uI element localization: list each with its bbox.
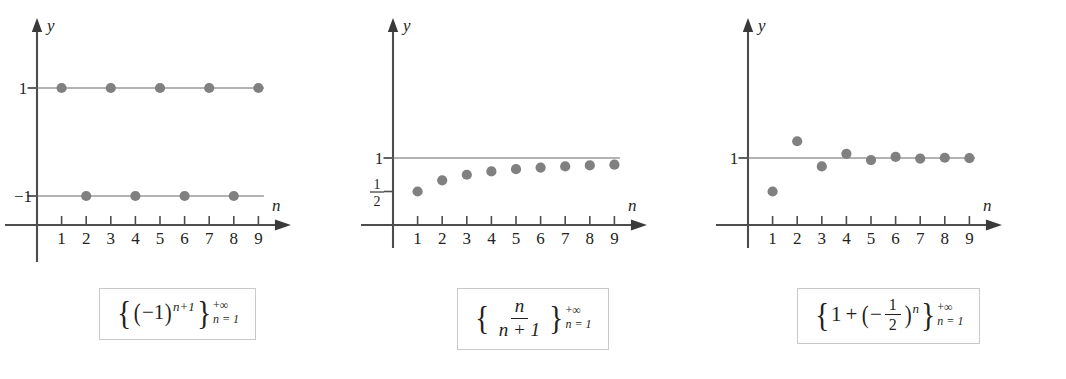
sequence-figure-row: yn1234567891−1 { ( −1 ) n+1 } +∞ n = 1: [0, 0, 1066, 379]
x-tick-label: 3: [462, 229, 471, 248]
brace-left-icon: {: [117, 299, 131, 326]
x-tick-label: 4: [842, 229, 851, 248]
data-point: [964, 153, 974, 163]
data-point: [768, 186, 778, 196]
x-tick-label: 1: [57, 229, 66, 248]
data-point: [130, 191, 140, 201]
scatter-plot-one-plus-half-alternating: yn1234567891: [711, 0, 1066, 282]
y-axis-arrow-icon: [387, 18, 397, 32]
fraction-one-half: 1 2: [885, 296, 901, 334]
paren-open: (: [862, 303, 869, 326]
x-tick-label: 1: [768, 229, 777, 248]
plot-area-one-plus-half-alternating: yn1234567891: [711, 0, 1066, 282]
x-tick-label: 1: [413, 229, 422, 248]
paren-close: ): [165, 301, 172, 324]
x-tick-label: 2: [82, 229, 91, 248]
y-tick-label: −1: [14, 187, 32, 206]
sequence-limits: +∞ n = 1: [565, 304, 591, 332]
sequence-limits: +∞ n = 1: [937, 301, 963, 329]
fraction-numerator: n: [511, 296, 529, 319]
paren-close: ): [905, 303, 912, 326]
fraction-numerator: 1: [885, 296, 901, 315]
x-tick-label: 8: [585, 229, 594, 248]
x-tick-label: 8: [230, 229, 239, 248]
x-tick-label: 3: [818, 229, 827, 248]
x-axis-label: n: [983, 196, 992, 215]
x-tick-label: 6: [536, 229, 545, 248]
data-point: [461, 170, 471, 180]
data-point: [253, 83, 263, 93]
caption-box-n-over-n-plus-1: { n n + 1 } +∞ n = 1: [457, 288, 608, 350]
limit-upper: +∞: [937, 301, 952, 315]
x-tick-label: 2: [437, 229, 446, 248]
plot-area-n-over-n-plus-1: yn123456789112: [356, 0, 711, 282]
x-tick-label: 4: [487, 229, 496, 248]
data-point: [560, 161, 570, 171]
plot-area-alternating: yn1234567891−1: [0, 0, 355, 282]
limit-lower: n = 1: [937, 315, 963, 329]
caption-box-alternating: { ( −1 ) n+1 } +∞ n = 1: [99, 288, 256, 340]
x-axis-arrow-icon: [986, 220, 1002, 231]
panel-n-over-n-plus-1: yn123456789112 { n n + 1 } +∞ n = 1: [356, 0, 711, 379]
data-point: [229, 191, 239, 201]
y-tick-label-numerator: 1: [373, 177, 380, 192]
x-tick-label: 9: [254, 229, 263, 248]
data-point: [792, 136, 802, 146]
scatter-plot-n-over-n-plus-1: yn123456789112: [356, 0, 711, 282]
x-tick-label: 7: [560, 229, 569, 248]
data-point: [866, 155, 876, 165]
fraction: n n + 1: [495, 296, 544, 340]
x-axis-label: n: [627, 196, 636, 215]
data-point: [106, 83, 116, 93]
brace-left-icon: {: [476, 304, 490, 331]
y-tick-label: 1: [19, 79, 28, 98]
x-tick-label: 4: [131, 229, 140, 248]
y-tick-label: 1: [730, 149, 739, 168]
y-axis-arrow-icon: [32, 18, 42, 32]
limit-upper: +∞: [213, 299, 228, 313]
x-axis-arrow-icon: [630, 220, 646, 231]
data-point: [841, 149, 851, 159]
data-point: [155, 83, 165, 93]
brace-right-icon: }: [197, 299, 211, 326]
x-tick-label: 2: [793, 229, 802, 248]
data-point: [891, 152, 901, 162]
y-tick-label: 1: [374, 149, 383, 168]
data-point: [510, 164, 520, 174]
y-axis-label: y: [401, 16, 411, 35]
x-axis-label: n: [272, 196, 281, 215]
data-point: [584, 160, 594, 170]
x-tick-label: 9: [610, 229, 619, 248]
data-point: [180, 191, 190, 201]
limit-lower: n = 1: [213, 313, 239, 327]
x-tick-label: 6: [891, 229, 900, 248]
data-point: [81, 191, 91, 201]
data-point: [609, 160, 619, 170]
plus-operator: +: [845, 304, 857, 325]
panel-alternating: yn1234567891−1 { ( −1 ) n+1 } +∞ n = 1: [0, 0, 355, 379]
scatter-plot-alternating: yn1234567891−1: [0, 0, 355, 282]
fraction-denominator: n + 1: [495, 319, 544, 341]
x-tick-label: 7: [205, 229, 214, 248]
y-axis-label: y: [756, 16, 766, 35]
brace-left-icon: {: [815, 301, 829, 328]
limit-upper: +∞: [565, 304, 580, 318]
negative-sign: −: [870, 304, 882, 325]
formula-body: ( −1 ) n+1: [133, 301, 194, 324]
y-tick-label-denominator: 2: [373, 194, 380, 209]
fraction-denominator: 2: [885, 315, 901, 333]
data-point: [437, 175, 447, 185]
limit-lower: n = 1: [565, 318, 591, 332]
caption-box-one-plus-half-alternating: { 1 + ( − 1 2 ) n } +∞ n = 1: [797, 288, 981, 344]
data-point: [204, 83, 214, 93]
y-axis-label: y: [45, 16, 55, 35]
leading-one: 1: [831, 304, 842, 325]
x-tick-label: 5: [867, 229, 876, 248]
formula-one-plus-half-alternating: { 1 + ( − 1 2 ) n } +∞ n = 1: [814, 296, 964, 334]
data-point: [535, 162, 545, 172]
x-tick-label: 7: [916, 229, 925, 248]
brace-right-icon: }: [921, 301, 935, 328]
minus-one-literal: −1: [142, 302, 164, 323]
data-point: [412, 186, 422, 196]
data-point: [57, 83, 67, 93]
